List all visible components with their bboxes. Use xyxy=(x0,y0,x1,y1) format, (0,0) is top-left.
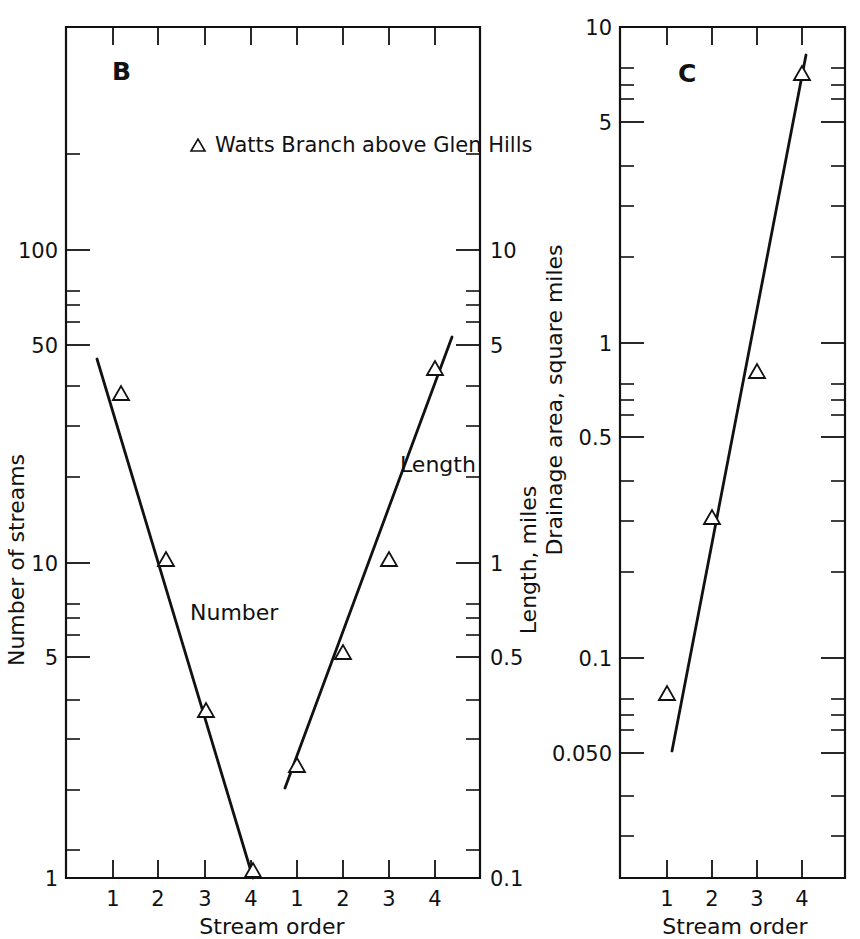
panel-c-y-tick-label-0-1: 0.1 xyxy=(579,647,612,671)
figure-container: 100 50 10 5 1 Number of streams xyxy=(0,0,860,939)
panel-c-x-tick-label-3: 3 xyxy=(750,887,763,911)
panel-c-right-minor-ticks xyxy=(831,68,845,836)
panel-b-left-tick-label-5: 5 xyxy=(45,646,58,670)
panel-c-y-tick-label-10: 10 xyxy=(585,16,612,40)
data-point-marker xyxy=(289,758,305,772)
panel-c-frame xyxy=(620,27,845,878)
panel-b-right-axis-title: Length, miles xyxy=(516,486,541,635)
panel-b-left-tick-label-100: 100 xyxy=(18,239,58,263)
panel-b-left-minor-ticks xyxy=(66,154,80,850)
panel-b-x-tick-label-n2: 2 xyxy=(151,887,164,911)
panel-b-letter: B xyxy=(112,57,131,86)
panel-b-right-tick-label-1: 1 xyxy=(490,552,503,576)
panel-b-left-axis-title: Number of streams xyxy=(4,454,29,666)
panel-b-right-major-ticks xyxy=(456,250,480,878)
panel-c-bottom-ticks xyxy=(667,860,802,878)
panel-c-letter: C xyxy=(678,59,696,88)
panel-b-x-tick-label-l3: 3 xyxy=(382,887,395,911)
panel-c-x-tick-label-1: 1 xyxy=(660,887,673,911)
panel-b-length-label: Length xyxy=(400,452,476,477)
panel-c-y-tick-label-0-5: 0.5 xyxy=(579,426,612,450)
data-point-marker xyxy=(749,364,765,378)
panel-b-number-label: Number xyxy=(190,600,279,625)
panel-b-right-tick-label-5: 5 xyxy=(490,334,503,358)
data-point-marker xyxy=(794,66,810,80)
panel-b-left-tick-label-1: 1 xyxy=(45,867,58,891)
panel-c-x-tick-label-4: 4 xyxy=(795,887,808,911)
panel-b-left-major-ticks xyxy=(66,250,90,878)
panel-b-top-ticks xyxy=(113,27,435,45)
panel-c-x-axis-title: Stream order xyxy=(662,914,808,939)
data-point-marker xyxy=(245,863,261,877)
panel-b-right-tick-label-0-5: 0.5 xyxy=(490,646,523,670)
panel-b-left-tick-label-50: 50 xyxy=(31,334,58,358)
panel-b-x-axis-title: Stream order xyxy=(199,914,345,939)
data-point-marker xyxy=(659,686,675,700)
panel-c: 10 5 1 0.5 0.1 0.050 Drainage area, squa… xyxy=(542,16,845,939)
panel-b-x-tick-label-l4: 4 xyxy=(428,887,441,911)
panel-c-y-axis-title: Drainage area, square miles xyxy=(542,244,567,555)
figure-svg: 100 50 10 5 1 Number of streams xyxy=(0,0,860,939)
panel-c-right-major-ticks xyxy=(821,27,845,753)
panel-b-x-tick-label-n3: 3 xyxy=(198,887,211,911)
panel-c-y-tick-label-5: 5 xyxy=(599,111,612,135)
panel-c-y-tick-label-0-050: 0.050 xyxy=(552,742,612,766)
panel-c-top-ticks xyxy=(667,27,802,45)
panel-c-y-tick-label-1: 1 xyxy=(599,332,612,356)
data-point-marker xyxy=(158,552,174,566)
panel-b-x-tick-label-n1: 1 xyxy=(106,887,119,911)
panel-b-right-minor-ticks xyxy=(466,154,480,850)
panel-b-x-tick-label-l1: 1 xyxy=(290,887,303,911)
triangle-up-open-icon xyxy=(191,139,205,151)
panel-b-legend: Watts Branch above Glen Hills xyxy=(191,133,532,157)
panel-b-x-tick-label-l2: 2 xyxy=(336,887,349,911)
panel-b-x-tick-label-n4: 4 xyxy=(244,887,257,911)
data-point-marker xyxy=(113,386,129,400)
panel-b-number-markers xyxy=(113,386,261,877)
panel-c-left-minor-ticks xyxy=(620,68,634,836)
panel-b-bottom-ticks xyxy=(113,860,435,878)
panel-b-length-fit-line xyxy=(285,337,452,788)
panel-b-right-tick-label-0-1: 0.1 xyxy=(490,867,523,891)
panel-c-x-tick-label-2: 2 xyxy=(705,887,718,911)
panel-b-legend-label: Watts Branch above Glen Hills xyxy=(215,133,532,157)
panel-c-markers xyxy=(659,66,810,700)
panel-b-right-tick-label-10: 10 xyxy=(490,239,517,263)
panel-b-left-tick-label-10: 10 xyxy=(31,552,58,576)
panel-c-left-major-ticks xyxy=(620,27,644,753)
panel-b: 100 50 10 5 1 Number of streams xyxy=(4,27,541,939)
data-point-marker xyxy=(381,552,397,566)
panel-c-fit-line xyxy=(672,55,806,751)
